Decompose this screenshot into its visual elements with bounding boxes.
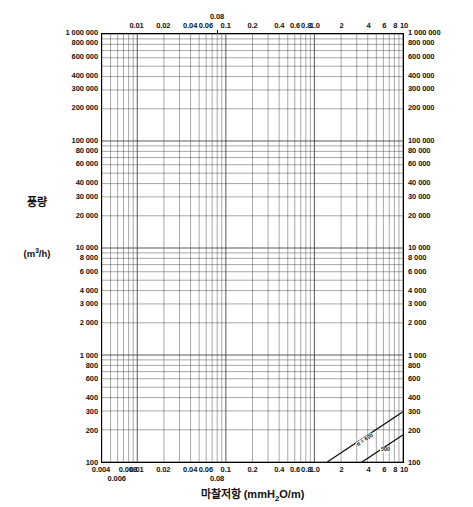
y-tick-left-20000: 20 000 [30,212,98,220]
x-tick-bottom-0.006: 0.006 [108,475,126,483]
y-tick-left-1000: 1 000 [30,352,98,360]
x-tick-top-0.1: 0.1 [221,22,231,30]
y-tick-left-100000: 100 000 [30,137,98,145]
y-tick-right-100000: 100 000 [408,137,434,145]
y-tick-left-8000: 8 000 [30,255,98,263]
x-tick-bottom-10: 10 [400,466,408,474]
x-tick-bottom-0.4: 0.4 [274,466,284,474]
x-tick-bottom-0.06: 0.06 [199,466,213,474]
y-tick-right-20000: 20 000 [408,212,430,220]
y-tick-left-10000: 10 000 [30,244,98,252]
y-tick-right-300000: 300 000 [408,85,434,93]
y-tick-left-300: 300 [30,408,98,416]
x-tick-bottom-0.02: 0.02 [156,466,170,474]
y-tick-left-80000: 80 000 [30,147,98,155]
x-tick-top-2: 2 [340,22,344,30]
y-tick-right-30000: 30 000 [408,193,430,201]
y-tick-right-2000: 2 000 [408,319,426,327]
y-tick-left-600: 600 [30,376,98,384]
y-tick-right-400: 400 [408,395,420,403]
y-tick-left-3000: 3 000 [30,300,98,308]
x-tick-top-6: 6 [382,22,386,30]
x-tick-bottom-0.08: 0.08 [210,475,224,483]
plot-area: d = 600500 [101,33,404,463]
y-tick-right-40000: 40 000 [408,180,430,188]
x-tick-top-0.04: 0.04 [183,22,197,30]
x-tick-bottom-8: 8 [393,466,397,474]
y-tick-right-60000: 60 000 [408,161,430,169]
y-tick-right-600: 600 [408,376,420,384]
y-tick-left-200000: 200 000 [30,104,98,112]
x-tick-top-0.01: 0.01 [129,22,143,30]
y-tick-left-300000: 300 000 [30,85,98,93]
y-tick-right-200: 200 [408,427,420,435]
y-tick-left-800000: 800 000 [30,40,98,48]
y-tick-left-400000: 400 000 [30,72,98,80]
y-tick-right-600000: 600 000 [408,53,434,61]
y-tick-left-60000: 60 000 [30,161,98,169]
x-tick-bottom-0.1: 0.1 [221,466,231,474]
x-tick-bottom-6: 6 [382,466,386,474]
y-tick-right-1000000: 1 000 000 [408,29,440,37]
y-tick-right-300: 300 [408,408,420,416]
y-tick-left-2000: 2 000 [30,319,98,327]
x-tick-top-0.4: 0.4 [274,22,284,30]
y-tick-right-400000: 400 000 [408,72,434,80]
y-tick-right-80000: 80 000 [408,147,430,155]
y-tick-left-800: 800 [30,362,98,370]
y-tick-right-100: 100 [408,459,420,467]
y-tick-left-40000: 40 000 [30,180,98,188]
y-tick-right-1000: 1 000 [408,352,426,360]
y-tick-right-10000: 10 000 [408,244,430,252]
duct-friction-chart: 풍량 (m3/h) 마찰저항 (mmH2O/m) 0.010.020.040.0… [0,0,473,507]
x-tick-bottom-1.0: 1.0 [310,466,320,474]
x-tick-bottom-0.2: 0.2 [247,466,257,474]
x-axis-title: 마찰저항 (mmH2O/m) [101,485,404,503]
x-tick-bottom-0.6: 0.6 [290,466,300,474]
x-tick-top-10: 10 [400,22,408,30]
x-tick-top-0.2: 0.2 [247,22,257,30]
x-tick-top-0.08: 0.08 [210,13,224,21]
y-tick-right-4000: 4 000 [408,287,426,295]
y-tick-left-600000: 600 000 [30,53,98,61]
x-tick-top-0.06: 0.06 [199,22,213,30]
y-tick-right-3000: 3 000 [408,300,426,308]
y-tick-left-30000: 30 000 [30,193,98,201]
x-tick-top-8: 8 [393,22,397,30]
x-tick-top-1.0: 1.0 [310,22,320,30]
x-tick-bottom-2: 2 [340,466,344,474]
x-tick-top-0.02: 0.02 [156,22,170,30]
y-tick-left-4000: 4 000 [30,287,98,295]
x-tick-top-4: 4 [366,22,370,30]
x-tick-top-0.6: 0.6 [290,22,300,30]
y-tick-left-1000000: 1 000 000 [30,29,98,37]
chart-curves [102,34,403,462]
y-tick-left-400: 400 [30,395,98,403]
y-tick-left-200: 200 [30,427,98,435]
diameter-label-500: 500 [380,447,390,452]
x-tick-bottom-0.04: 0.04 [183,466,197,474]
x-tick-bottom-0.01: 0.01 [129,466,143,474]
y-tick-left-100: 100 [30,459,98,467]
y-tick-right-6000: 6 000 [408,268,426,276]
y-tick-right-800: 800 [408,362,420,370]
y-tick-right-8000: 8 000 [408,255,426,263]
y-tick-left-6000: 6 000 [30,268,98,276]
x-tick-bottom-4: 4 [366,466,370,474]
y-tick-right-200000: 200 000 [408,104,434,112]
y-tick-right-800000: 800 000 [408,40,434,48]
